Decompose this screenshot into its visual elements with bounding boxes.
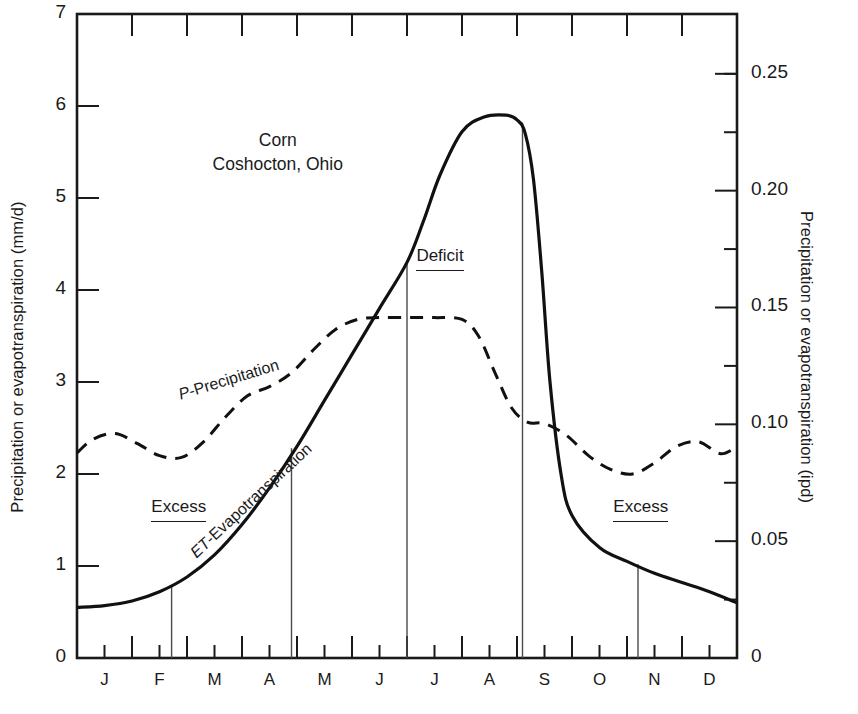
y-tick-label-left: 5 [30, 185, 66, 207]
y-tick-label-right: 0.25 [751, 61, 788, 83]
x-tick-label-m-2: M [193, 670, 237, 690]
x-tick-label-f-1: F [138, 670, 182, 690]
annotation-deficit-middle: Deficit [400, 246, 480, 266]
x-tick-label-d-11: D [688, 670, 732, 690]
annotation-excess-left: Excess [139, 497, 219, 517]
y-tick-label-right: 0.20 [751, 178, 788, 200]
x-tick-label-j-6: J [413, 670, 457, 690]
x-tick-label-o-9: O [578, 670, 622, 690]
x-tick-label-s-8: S [523, 670, 567, 690]
annotation-text: Excess [613, 497, 668, 522]
y-tick-label-left: 3 [30, 369, 66, 391]
annotation-text: Excess [151, 497, 206, 522]
page-title: Corn [158, 129, 398, 153]
y-tick-label-right: 0.10 [751, 411, 788, 433]
annotation-excess-right: Excess [601, 497, 681, 517]
annotation-text: Deficit [416, 246, 463, 271]
chart-figure: Precipitation or evapotranspiration (mm/… [0, 0, 858, 714]
x-tick-label-n-10: N [633, 670, 677, 690]
y-axis-label-right: Precipitation or evapotranspiration (ipd… [790, 0, 824, 714]
y-tick-label-left: 1 [30, 553, 66, 575]
y-tick-label-left: 2 [30, 461, 66, 483]
y-tick-label-left: 7 [30, 1, 66, 23]
chart-plot-area [0, 0, 858, 714]
y-tick-label-right: 0 [751, 645, 762, 667]
y-tick-label-right: 0.05 [751, 528, 788, 550]
x-tick-label-a-3: A [248, 670, 292, 690]
x-tick-label-j-5: J [358, 670, 402, 690]
y-tick-label-left: 4 [30, 277, 66, 299]
y-tick-label-left: 6 [30, 93, 66, 115]
chart-subtitle: Coshocton, Ohio [158, 153, 398, 177]
chart-title-block: Corn Coshocton, Ohio [158, 129, 398, 176]
x-tick-label-m-4: M [303, 670, 347, 690]
x-tick-label-j-0: J [83, 670, 127, 690]
x-tick-label-a-7: A [468, 670, 512, 690]
y-axis-label-left: Precipitation or evapotranspiration (mm/… [0, 0, 34, 714]
y-tick-label-left: 0 [30, 645, 66, 667]
y-tick-label-right: 0.15 [751, 294, 788, 316]
drop-lines [172, 123, 638, 658]
